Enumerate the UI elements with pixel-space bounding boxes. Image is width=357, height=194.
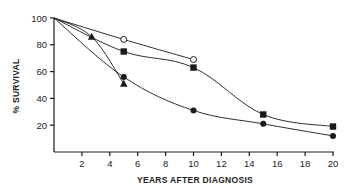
x-tick-label: 18 bbox=[300, 158, 311, 169]
x-tick-label: 10 bbox=[188, 158, 199, 169]
filled-square-marker bbox=[121, 48, 127, 54]
x-tick-label: 12 bbox=[216, 158, 227, 169]
y-ticks: 20406080100 bbox=[31, 13, 54, 131]
y-tick-label: 20 bbox=[36, 120, 47, 131]
open-circle-marker bbox=[121, 36, 127, 42]
filled-circle-marker bbox=[191, 107, 197, 113]
filled-triangle-marker bbox=[120, 80, 128, 87]
filled-square-marker bbox=[190, 64, 196, 70]
y-tick-label: 100 bbox=[31, 13, 47, 24]
filled-circle-line bbox=[54, 18, 333, 136]
x-tick-label: 20 bbox=[328, 158, 339, 169]
x-tick-label: 6 bbox=[135, 158, 140, 169]
axes: 20406080100 2468101214161820 bbox=[31, 13, 338, 170]
y-tick-label: 80 bbox=[36, 39, 47, 50]
filled-square-marker bbox=[330, 123, 336, 129]
y-axis-title: % SURVIVAL bbox=[11, 58, 21, 113]
filled-circle-marker bbox=[330, 133, 336, 139]
open-circle-marker bbox=[191, 57, 197, 63]
series-lines bbox=[54, 18, 333, 136]
x-tick-label: 4 bbox=[107, 158, 112, 169]
x-tick-label: 8 bbox=[163, 158, 168, 169]
x-tick-label: 16 bbox=[272, 158, 283, 169]
y-tick-label: 40 bbox=[36, 93, 47, 104]
x-tick-label: 14 bbox=[244, 158, 255, 169]
x-axis-title: YEARS AFTER DIAGNOSIS bbox=[137, 175, 253, 185]
filled-circle-marker bbox=[260, 121, 266, 127]
survival-chart: 20406080100 2468101214161820 % SURVIVAL … bbox=[0, 0, 357, 194]
y-tick-label: 60 bbox=[36, 66, 47, 77]
x-ticks: 2468101214161820 bbox=[79, 152, 338, 169]
filled-square-marker bbox=[260, 111, 266, 117]
x-tick-label: 2 bbox=[79, 158, 84, 169]
filled-circle-marker bbox=[121, 74, 127, 80]
